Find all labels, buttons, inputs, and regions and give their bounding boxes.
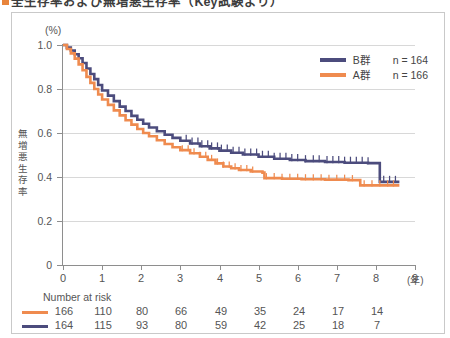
- y-axis-title: 無増悪生存率: [16, 128, 30, 197]
- number-at-risk-cell: 115: [86, 319, 120, 331]
- figure-root: 全生存率および無増悪生存率（Key試験より） (%) 無増悪生存率 1.0 0.…: [0, 0, 450, 338]
- legend-swatch-b: [320, 58, 346, 62]
- x-label-2: 2: [126, 272, 156, 284]
- number-at-risk-cell: 80: [125, 305, 159, 317]
- number-at-risk-cell: 80: [164, 319, 198, 331]
- number-at-risk-swatch: [22, 325, 48, 328]
- chart-legend: B群 n = 164 A群 n = 166: [320, 52, 428, 82]
- x-label-6: 6: [283, 272, 313, 284]
- x-tick-7: [337, 265, 338, 270]
- x-label-7: 7: [322, 272, 352, 284]
- legend-item-a: A群 n = 166: [320, 67, 428, 82]
- x-tick-6: [298, 265, 299, 270]
- x-label-1: 1: [87, 272, 117, 284]
- x-axis-unit: (年): [407, 272, 424, 287]
- x-tick-3: [180, 265, 181, 270]
- number-at-risk-cell: 25: [282, 319, 316, 331]
- gridline-0-4: [63, 177, 415, 178]
- x-tick-5: [259, 265, 260, 270]
- number-at-risk-cell: 110: [86, 305, 120, 317]
- number-at-risk-cell: 7: [360, 319, 394, 331]
- y-tick-0-2: [57, 221, 63, 222]
- y-label-1-0: 1.0: [6, 40, 52, 50]
- x-tick-1: [102, 265, 103, 270]
- legend-swatch-a: [320, 73, 346, 77]
- number-at-risk-cell: 24: [282, 305, 316, 317]
- y-label-0-2: 0.2: [6, 216, 52, 226]
- number-at-risk-swatch: [22, 311, 48, 314]
- x-label-0: 0: [48, 272, 78, 284]
- y-tick-0-8: [57, 89, 63, 90]
- x-tick-8: [376, 265, 377, 270]
- gridline-0-8: [63, 89, 415, 90]
- number-at-risk-cell: 93: [125, 319, 159, 331]
- x-label-5: 5: [244, 272, 274, 284]
- gridline-0-6: [63, 133, 415, 134]
- number-at-risk-cell: 18: [321, 319, 355, 331]
- x-axis-line: [63, 265, 416, 266]
- legend-label-b: B群: [353, 52, 381, 67]
- number-at-risk-cell: 42: [243, 319, 277, 331]
- legend-n-b: n = 164: [393, 54, 428, 66]
- number-at-risk-cell: 35: [243, 305, 277, 317]
- y-axis-line: [62, 44, 63, 266]
- number-at-risk-cell: 66: [164, 305, 198, 317]
- number-at-risk-cell: 59: [204, 319, 238, 331]
- page-title-text: 全生存率および無増悪生存率（Key試験より）: [11, 0, 283, 9]
- legend-n-a: n = 166: [393, 69, 428, 81]
- y-tick-0-6: [57, 133, 63, 134]
- x-tick-2: [141, 265, 142, 270]
- gridline-0-2: [63, 221, 415, 222]
- y-tick-0-4: [57, 177, 63, 178]
- x-label-4: 4: [205, 272, 235, 284]
- y-tick-1-0: [57, 45, 63, 46]
- x-tick-0: [63, 265, 64, 270]
- y-label-0-8: 0.8: [6, 84, 52, 94]
- page-title: 全生存率および無増悪生存率（Key試験より）: [2, 0, 283, 10]
- number-at-risk-cell: 49: [204, 305, 238, 317]
- y-label-0-6: 0.6: [6, 128, 52, 138]
- number-at-risk-cell: 14: [360, 305, 394, 317]
- number-at-risk-cell: 166: [47, 305, 81, 317]
- legend-label-a: A群: [353, 67, 381, 82]
- legend-item-b: B群 n = 164: [320, 52, 428, 67]
- x-tick-4: [220, 265, 221, 270]
- gridline-1-0: [63, 45, 415, 46]
- number-at-risk-cell: 17: [321, 305, 355, 317]
- y-label-0-4: 0.4: [6, 172, 52, 182]
- x-tick-9: [415, 265, 416, 270]
- y-axis-unit: (%): [45, 24, 61, 36]
- y-label-0: 0: [6, 260, 52, 270]
- figure-title-strip: 全生存率および無増悪生存率（Key試験より）: [0, 0, 450, 12]
- x-label-8: 8: [361, 272, 391, 284]
- x-label-3: 3: [165, 272, 195, 284]
- number-at-risk-label: Number at risk: [43, 291, 111, 303]
- title-marker-icon: [2, 0, 9, 5]
- number-at-risk-cell: 164: [47, 319, 81, 331]
